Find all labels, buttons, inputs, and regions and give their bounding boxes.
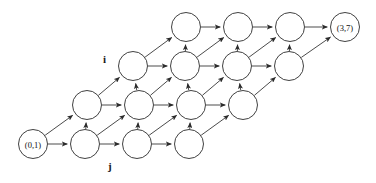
lattice-node-labeled[interactable]: (3,7) <box>331 13 360 42</box>
lattice-edge-vertical <box>136 83 137 90</box>
lattice-edge-vertical <box>188 83 189 90</box>
lattice-edge-diagonal <box>145 37 172 57</box>
lattice-node-labeled[interactable]: (0,1) <box>19 130 48 159</box>
lattice-edge-diagonal <box>301 37 330 57</box>
node-circle <box>177 91 206 120</box>
lattice-node[interactable] <box>175 130 204 159</box>
node-circle <box>123 130 152 159</box>
lattice-node[interactable] <box>224 13 253 42</box>
lattice-node[interactable] <box>229 91 258 120</box>
lattice-edge-diagonal <box>201 115 228 135</box>
lattice-node[interactable] <box>125 91 154 120</box>
node-label: (3,7) <box>337 23 353 33</box>
node-circle <box>175 130 204 159</box>
lattice-node[interactable] <box>275 52 304 81</box>
lattice-edge-diagonal <box>98 77 119 95</box>
node-circle <box>73 91 102 120</box>
node-circle <box>224 13 253 42</box>
lattice-edge-diagonal <box>202 77 223 95</box>
lattice-edge-diagonal <box>150 77 171 95</box>
lattice-node[interactable] <box>171 52 200 81</box>
node-circle <box>275 52 304 81</box>
lattice-node[interactable] <box>223 52 252 81</box>
node-circle <box>223 52 252 81</box>
lattice-node[interactable] <box>73 91 102 120</box>
lattice-edge-vertical <box>240 83 241 90</box>
node-circle <box>71 130 100 159</box>
lattice-node[interactable] <box>119 52 148 81</box>
lattice-node[interactable] <box>276 13 305 42</box>
edges-layer <box>45 27 330 144</box>
lattice-node[interactable] <box>177 91 206 120</box>
node-circle <box>119 52 148 81</box>
node-circle <box>171 52 200 81</box>
lattice-edge-diagonal <box>45 115 72 135</box>
lattice-edge-diagonal <box>97 115 124 135</box>
node-circle <box>229 91 258 120</box>
lattice-edge-diagonal <box>149 115 176 135</box>
lattice-graph: (0,1)(3,7) <box>0 0 376 183</box>
node-circle <box>276 13 305 42</box>
node-circle <box>172 13 201 42</box>
nodes-layer: (0,1)(3,7) <box>19 13 360 159</box>
lattice-edge-diagonal <box>197 37 224 57</box>
node-label: (0,1) <box>25 140 41 150</box>
lattice-node[interactable] <box>71 130 100 159</box>
i-axis-label: i <box>103 54 106 65</box>
j-axis-label: j <box>108 161 112 172</box>
lattice-edge-diagonal <box>254 77 275 95</box>
lattice-edge-diagonal <box>249 37 276 57</box>
lattice-node[interactable] <box>172 13 201 42</box>
lattice-node[interactable] <box>123 130 152 159</box>
node-circle <box>125 91 154 120</box>
lattice-diagram-canvas: (0,1)(3,7) i j <box>0 0 376 183</box>
